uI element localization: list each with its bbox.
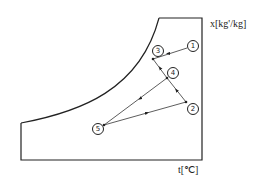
psychrometric-diagram: x[kg'/kg] t[℃] 1 3 4 2 5 — [0, 0, 266, 185]
x-axis-label: t[℃] — [178, 164, 198, 175]
process-5-2 — [104, 102, 186, 125]
point-label-4: 4 — [167, 67, 179, 79]
point-label-5: 5 — [92, 123, 104, 135]
state-point-2 — [185, 101, 188, 104]
process-2-4 — [167, 78, 186, 102]
y-axis-label: x[kg'/kg] — [210, 18, 246, 29]
process-4-5 — [104, 78, 167, 125]
saturation-curve — [21, 18, 159, 123]
point-label-1: 1 — [187, 40, 199, 52]
arrow-icon — [140, 98, 141, 99]
state-point-3 — [152, 58, 155, 61]
arrow-icon — [160, 68, 161, 69]
point-label-2: 2 — [187, 103, 199, 115]
arrow-icon — [176, 90, 177, 91]
point-label-3: 3 — [152, 45, 164, 57]
